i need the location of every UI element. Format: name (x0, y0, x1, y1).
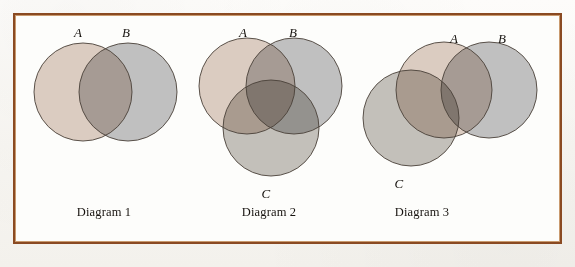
venn-panel (199, 38, 342, 176)
set-label-b: B (289, 25, 297, 41)
venn-panel (34, 43, 177, 141)
panel-caption: Diagram 3 (395, 205, 449, 220)
figure-page: ABDiagram 1ABCDiagram 2ABCDiagram 3 (0, 0, 575, 267)
set-label-b: B (122, 25, 130, 41)
panel-caption: Diagram 1 (77, 205, 131, 220)
venn-circle-b-fill (79, 43, 177, 141)
figure-frame: ABDiagram 1ABCDiagram 2ABCDiagram 3 (13, 13, 562, 244)
set-label-c: C (262, 186, 271, 202)
set-label-a: A (450, 31, 458, 47)
panel-caption: Diagram 2 (242, 205, 296, 220)
set-label-a: A (74, 25, 82, 41)
set-label-b: B (498, 31, 506, 47)
venn-circle-c-fill (363, 70, 459, 166)
venn-panel (363, 42, 537, 166)
set-label-c: C (395, 176, 404, 192)
set-label-a: A (239, 25, 247, 41)
